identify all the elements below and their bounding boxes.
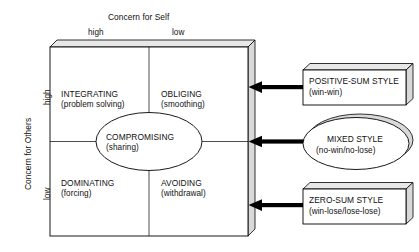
quadrant-avoiding-sub: (withdrawal) bbox=[161, 189, 206, 199]
top-axis-title: Concern for Self bbox=[108, 13, 169, 23]
quadrant-obliging-label: OBLIGING bbox=[161, 90, 202, 100]
compromising-label: COMPROMISING bbox=[106, 133, 174, 143]
callout-zero-sum-label: ZERO-SUM STYLE bbox=[309, 196, 383, 206]
quadrant-integrating-label: INTEGRATING bbox=[61, 90, 118, 100]
quadrant-obliging-sub: (smoothing) bbox=[161, 100, 205, 110]
quadrant-dominating-sub: (forcing) bbox=[61, 189, 91, 199]
left-tick-high: high bbox=[43, 89, 53, 105]
arrow-mixed bbox=[249, 136, 306, 148]
left-tick-low: low bbox=[43, 188, 53, 200]
callout-zero-sum-sub: (win-lose/lose-lose) bbox=[309, 207, 381, 217]
callout-mixed-sub: (no-win/no-lose) bbox=[316, 146, 376, 156]
quadrant-integrating-sub: (problem solving) bbox=[61, 100, 125, 110]
matrix-top-face bbox=[50, 40, 255, 47]
callout-positive-sum-label: POSITIVE-SUM STYLE bbox=[309, 77, 399, 87]
conflict-styles-diagram: Concern for Self high low Concern for Ot… bbox=[0, 0, 419, 252]
arrow-zero-sum bbox=[249, 199, 306, 211]
top-tick-low: low bbox=[172, 28, 184, 38]
left-axis-title: Concern for Others bbox=[24, 118, 34, 190]
top-tick-high: high bbox=[88, 28, 104, 38]
arrow-positive-sum bbox=[249, 81, 306, 93]
quadrant-dominating-label: DOMINATING bbox=[61, 179, 114, 189]
quadrant-avoiding-label: AVOIDING bbox=[161, 179, 202, 189]
compromising-sub: (sharing) bbox=[106, 143, 139, 153]
callout-mixed-label: MIXED STYLE bbox=[327, 135, 383, 145]
callout-positive-sum-sub: (win-win) bbox=[309, 88, 342, 98]
